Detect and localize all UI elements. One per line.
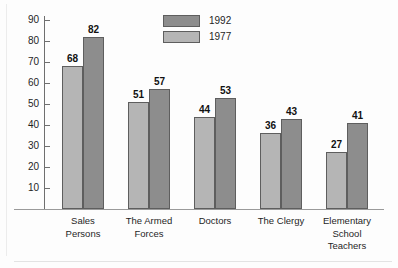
- bar-value-label: 44: [199, 104, 210, 115]
- y-axis-tick-mark: [44, 104, 50, 105]
- bar-1977: 68: [62, 66, 83, 209]
- bar-value-label: 27: [331, 139, 342, 150]
- legend-swatch: [163, 31, 200, 43]
- bar-1977: 44: [194, 117, 215, 209]
- bar-1977: 51: [128, 102, 149, 209]
- y-axis-tick-mark: [44, 188, 50, 189]
- bar-value-label: 82: [88, 24, 99, 35]
- y-axis-tick-mark: [44, 125, 50, 126]
- chart-legend: 19921977: [163, 13, 231, 45]
- bar-1992: 41: [347, 123, 368, 209]
- page-rule-bottom: [14, 261, 392, 262]
- category-label-line: Forces: [106, 228, 192, 241]
- y-axis-tick-label: 40: [28, 118, 39, 131]
- y-axis-tick-mark: [44, 20, 50, 21]
- y-axis-tick-mark: [44, 62, 50, 63]
- legend-swatch: [163, 15, 200, 27]
- plot-area: 102030405060708090 6882SalesPersons5157T…: [44, 16, 384, 210]
- x-axis-baseline: [14, 209, 384, 210]
- bar-1992: 57: [149, 89, 170, 209]
- bar-chart-figure: 102030405060708090 6882SalesPersons5157T…: [0, 0, 398, 268]
- y-axis-tick-label: 90: [28, 13, 39, 26]
- bar-1992: 43: [281, 119, 302, 209]
- category-label-line: Elementary: [304, 215, 390, 228]
- bar-value-label: 51: [133, 89, 144, 100]
- bar-value-label: 43: [286, 106, 297, 117]
- y-axis-tick-label: 80: [28, 34, 39, 47]
- bar-1992: 53: [215, 98, 236, 209]
- bar-1977: 36: [260, 133, 281, 209]
- bar-value-label: 68: [67, 53, 78, 64]
- bar-1992: 82: [83, 37, 104, 209]
- bar-1977: 27: [326, 152, 347, 209]
- legend-item-1992: 1992: [163, 13, 231, 29]
- y-axis-tick-mark: [44, 83, 50, 84]
- y-axis-tick-label: 30: [28, 139, 39, 152]
- y-axis-tick-label: 60: [28, 76, 39, 89]
- y-axis-tick-label: 50: [28, 97, 39, 110]
- category-label-line: School: [304, 228, 390, 241]
- y-axis-tick-mark: [44, 167, 50, 168]
- y-axis-tick-mark: [44, 41, 50, 42]
- bar-group: 2741ElementarySchoolTeachers: [326, 16, 368, 209]
- bar-group: 3643The Clergy: [260, 16, 302, 209]
- bar-value-label: 41: [352, 110, 363, 121]
- y-axis-tick-label: 70: [28, 55, 39, 68]
- legend-item-1977: 1977: [163, 29, 231, 45]
- bar-group: 6882SalesPersons: [62, 16, 104, 209]
- page-rule-left: [6, 4, 7, 256]
- category-label-line: Teachers: [304, 240, 390, 253]
- x-axis-category-label: ElementarySchoolTeachers: [304, 215, 390, 253]
- bar-value-label: 57: [154, 76, 165, 87]
- bar-value-label: 36: [265, 120, 276, 131]
- legend-label: 1992: [209, 15, 231, 27]
- y-axis-tick-label: 10: [28, 181, 39, 194]
- bar-value-label: 53: [220, 85, 231, 96]
- y-axis-tick-mark: [44, 146, 50, 147]
- y-axis-line: [44, 16, 45, 210]
- legend-label: 1977: [209, 31, 231, 43]
- y-axis-tick-label: 20: [28, 160, 39, 173]
